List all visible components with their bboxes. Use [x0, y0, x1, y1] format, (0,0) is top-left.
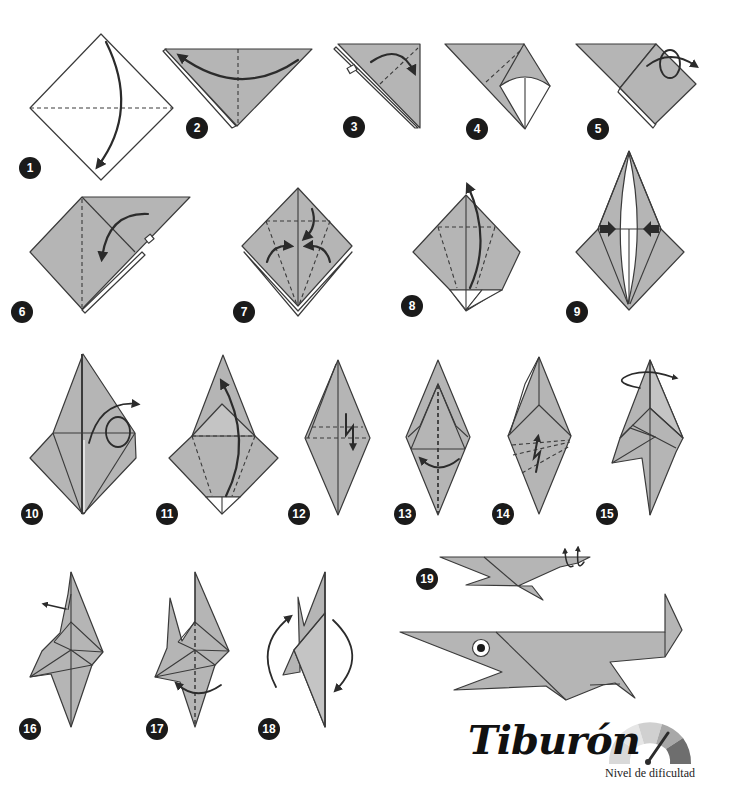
- svg-text:16: 16: [23, 722, 37, 736]
- step-18-badge: 18: [258, 718, 280, 740]
- step-13-badge: 13: [394, 503, 416, 525]
- step-6-badge: 6: [11, 301, 33, 323]
- step-5-diagram: [576, 44, 696, 128]
- svg-text:7: 7: [241, 305, 248, 319]
- step-9-diagram: [576, 151, 684, 310]
- step-4-badge: 4: [466, 118, 488, 140]
- svg-text:15: 15: [600, 507, 614, 521]
- step-1-diagram: [30, 34, 173, 180]
- svg-text:17: 17: [150, 722, 164, 736]
- step-11-badge: 11: [156, 503, 178, 525]
- step-10-badge: 10: [21, 503, 43, 525]
- step-3-badge: 3: [343, 116, 365, 138]
- svg-text:8: 8: [409, 299, 416, 313]
- step-6-diagram: [30, 197, 190, 313]
- svg-text:1: 1: [27, 161, 34, 175]
- svg-text:13: 13: [398, 507, 412, 521]
- step-7-diagram: [242, 188, 352, 316]
- svg-text:12: 12: [292, 507, 306, 521]
- svg-text:4: 4: [474, 122, 481, 136]
- step-16-badge: 16: [19, 718, 41, 740]
- origami-diagram: 1 2 3 4 5: [0, 0, 736, 809]
- step-19-badge: 19: [416, 568, 438, 590]
- step-7-badge: 7: [233, 301, 255, 323]
- step-2-badge: 2: [186, 117, 208, 139]
- step-4-diagram: [445, 44, 550, 129]
- step-10-diagram: [30, 354, 137, 514]
- step-1-badge: 1: [19, 157, 41, 179]
- difficulty-label: Nivel de dificultad: [605, 766, 695, 781]
- step-2-diagram: [163, 49, 312, 128]
- svg-text:3: 3: [351, 120, 358, 134]
- svg-text:14: 14: [496, 507, 510, 521]
- step-3-diagram: [334, 44, 420, 128]
- step-19-diagram: [440, 548, 590, 600]
- step-12-badge: 12: [288, 503, 310, 525]
- step-8-diagram: [413, 186, 520, 311]
- step-9-badge: 9: [566, 301, 588, 323]
- svg-text:5: 5: [595, 122, 602, 136]
- step-15-badge: 15: [596, 503, 618, 525]
- svg-text:10: 10: [25, 507, 39, 521]
- step-14-diagram: [508, 357, 571, 514]
- svg-text:2: 2: [194, 121, 201, 135]
- step-17-diagram: [155, 572, 229, 727]
- finished-shark: [400, 594, 682, 700]
- svg-text:9: 9: [574, 305, 581, 319]
- page-title: Tiburón: [468, 716, 640, 763]
- step-11-diagram: [169, 355, 278, 514]
- step-5-badge: 5: [587, 118, 609, 140]
- svg-text:11: 11: [161, 507, 174, 521]
- step-14-badge: 14: [492, 503, 514, 525]
- svg-text:18: 18: [262, 722, 276, 736]
- step-16-diagram: [30, 572, 103, 727]
- step-18-diagram: [268, 572, 353, 727]
- step-15-diagram: [612, 360, 683, 515]
- step-8-badge: 8: [401, 295, 423, 317]
- svg-text:19: 19: [420, 572, 434, 586]
- step-13-diagram: [406, 360, 470, 515]
- svg-text:6: 6: [19, 305, 26, 319]
- step-17-badge: 17: [146, 718, 168, 740]
- step-12-diagram: [305, 360, 370, 515]
